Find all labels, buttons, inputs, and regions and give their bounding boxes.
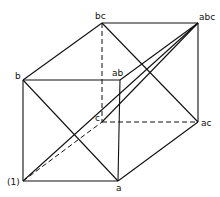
vertex-label-ac: ac [201,119,211,128]
solid-edge-b-a [23,80,118,181]
factorial-cube-diagram: (1) a b ab c ac bc abc [0,0,220,197]
vertex-label-b: b [15,72,21,81]
cube-lines [0,0,220,197]
vertex-label-c: c [95,114,100,123]
vertex-label-abc: abc [199,13,215,22]
solid-edge-b-bc [23,23,102,80]
solid-edge-ab-abc [120,23,198,80]
vertex-label-one: (1) [7,178,20,187]
vertex-label-a: a [116,184,122,193]
vertex-label-ab: ab [112,69,123,78]
vertex-label-bc: bc [95,12,106,21]
solid-edge-one-abc [23,23,198,181]
solid-edge-a-ac [118,122,198,181]
